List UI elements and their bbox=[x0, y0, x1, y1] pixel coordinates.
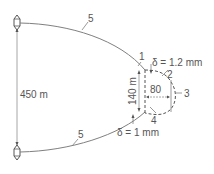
arrow-left-icon bbox=[146, 96, 149, 99]
callout-1: 1 bbox=[139, 51, 145, 62]
width-label: 80 bbox=[150, 84, 162, 95]
callout-4: 4 bbox=[151, 115, 157, 126]
callout-leader-4 bbox=[150, 107, 156, 113]
cable-diagram: 140 m 80 δ = 1.2 mm δ = 1 mm 1 2 3 4 5 5… bbox=[0, 0, 214, 174]
top-anchor-icon bbox=[14, 15, 20, 30]
bottom-anchor-icon bbox=[14, 145, 20, 160]
callout-3: 3 bbox=[184, 88, 190, 99]
deflection-top-label: δ = 1.2 mm bbox=[152, 57, 202, 68]
callout-2: 2 bbox=[167, 69, 173, 80]
arrow-up-icon bbox=[132, 114, 135, 118]
arrow-down-icon bbox=[150, 70, 153, 74]
height-label: 140 m bbox=[127, 77, 138, 105]
arrow-up-icon bbox=[138, 70, 141, 74]
cable-curve-top bbox=[20, 23, 145, 70]
span-label: 450 m bbox=[20, 89, 48, 100]
arrow-down-icon bbox=[138, 108, 141, 112]
callout-5-top: 5 bbox=[88, 13, 94, 24]
callout-5-bottom: 5 bbox=[78, 129, 84, 140]
deflection-bottom-label: δ = 1 mm bbox=[117, 127, 159, 138]
arrow-right-icon bbox=[167, 96, 170, 99]
